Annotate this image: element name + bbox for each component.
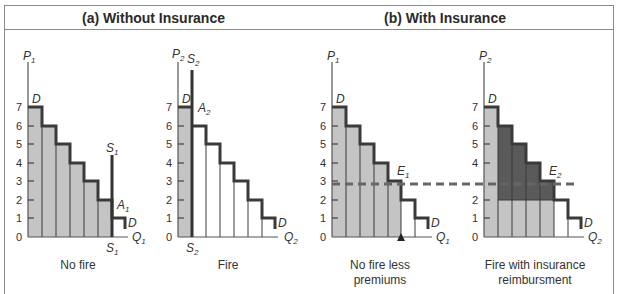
svg-text:Q1: Q1 [436, 230, 450, 246]
panel-no-fire-less-premiums: P1 D E1 D Q1 012 345 67 [320, 49, 450, 246]
diagram-canvas: .ax{stroke:#555;stroke-width:1.2;fill:no… [0, 0, 620, 294]
svg-text:1: 1 [472, 212, 478, 224]
svg-text:6: 6 [320, 120, 326, 132]
svg-text:7: 7 [472, 101, 478, 113]
svg-text:7: 7 [166, 101, 172, 113]
svg-text:S2: S2 [187, 52, 200, 68]
svg-text:P1: P1 [23, 49, 35, 65]
svg-text:1: 1 [320, 212, 326, 224]
svg-text:6: 6 [166, 120, 172, 132]
svg-text:P2: P2 [479, 49, 492, 65]
panel-no-fire: P1 D S1 A1 D Q1 S1 012 345 67 [16, 49, 146, 257]
svg-text:P2: P2 [172, 47, 185, 63]
svg-text:S1: S1 [106, 141, 118, 157]
caption-line: reimbursment [470, 273, 600, 288]
svg-text:D: D [431, 216, 440, 230]
svg-text:3: 3 [166, 175, 172, 187]
svg-text:6: 6 [472, 120, 478, 132]
caption-fire-with-reimbursement: Fire with insurance reimbursment [470, 258, 600, 288]
svg-text:0: 0 [320, 231, 326, 243]
svg-text:2: 2 [16, 194, 22, 206]
svg-text:0: 0 [16, 231, 22, 243]
svg-text:0: 0 [472, 231, 478, 243]
svg-text:D: D [32, 92, 41, 106]
svg-text:1: 1 [166, 212, 172, 224]
svg-text:Q2: Q2 [284, 230, 298, 246]
svg-text:Q1: Q1 [132, 230, 146, 246]
svg-text:3: 3 [16, 175, 22, 187]
svg-text:S2: S2 [186, 241, 199, 257]
svg-text:0: 0 [166, 231, 172, 243]
svg-text:4: 4 [472, 157, 478, 169]
svg-text:S1: S1 [106, 241, 118, 257]
svg-text:5: 5 [320, 138, 326, 150]
svg-text:7: 7 [320, 101, 326, 113]
caption-no-fire: No fire [28, 258, 128, 273]
panel-fire: P2 S2 D A2 D Q2 S2 012 345 67 [166, 47, 298, 257]
panel-fire-with-reimbursement: P2 D E2 D Q2 012 45 67 [472, 49, 602, 246]
svg-text:4: 4 [16, 157, 22, 169]
svg-text:D: D [278, 216, 287, 230]
caption-line: No fire less [320, 258, 440, 273]
svg-text:2: 2 [320, 194, 326, 206]
svg-text:D: D [128, 216, 137, 230]
svg-text:1: 1 [16, 212, 22, 224]
svg-text:A1: A1 [116, 198, 129, 214]
svg-text:D: D [182, 92, 191, 106]
svg-text:E2: E2 [549, 164, 562, 180]
svg-text:5: 5 [166, 138, 172, 150]
svg-text:A2: A2 [197, 101, 211, 117]
caption-line: Fire with insurance [470, 258, 600, 273]
caption-no-fire-less-premiums: No fire less premiums [320, 258, 440, 288]
svg-text:5: 5 [16, 138, 22, 150]
svg-text:4: 4 [320, 157, 326, 169]
svg-text:7: 7 [16, 101, 22, 113]
svg-text:D: D [584, 216, 593, 230]
caption-fire: Fire [178, 258, 278, 273]
svg-text:2: 2 [166, 194, 172, 206]
caption-line: premiums [320, 273, 440, 288]
svg-text:D: D [336, 92, 345, 106]
svg-text:Q2: Q2 [588, 230, 602, 246]
svg-text:P1: P1 [327, 49, 339, 65]
svg-text:4: 4 [166, 157, 172, 169]
svg-text:6: 6 [16, 120, 22, 132]
svg-text:5: 5 [472, 138, 478, 150]
svg-text:E1: E1 [397, 164, 409, 180]
svg-text:D: D [488, 92, 497, 106]
svg-text:3: 3 [320, 175, 326, 187]
svg-text:2: 2 [472, 194, 478, 206]
